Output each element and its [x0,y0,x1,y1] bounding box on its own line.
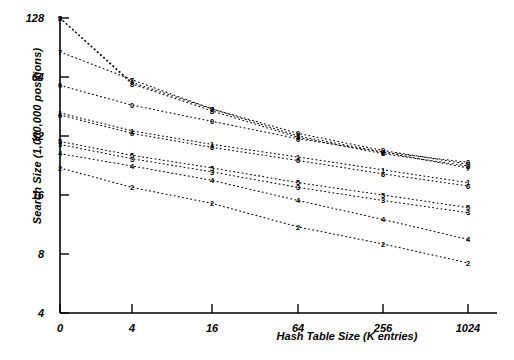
data-point-label-0: 0 [210,117,214,126]
series-line-2 [60,168,468,263]
series-2: 222222 [58,164,470,268]
data-point-label-3: 3 [296,183,300,192]
series-8: 888888 [58,14,470,171]
data-point-label-6: 6 [296,156,300,165]
data-series-layer: 9999997777778888880000001111116666665555… [0,0,514,360]
series-6: 666666 [58,111,470,191]
series-5: 555555 [58,137,470,212]
data-point-label-6: 6 [58,111,62,120]
series-line-8 [60,18,468,166]
data-point-label-7: 7 [58,48,62,57]
series-9: 999999 [58,14,470,169]
data-point-label-2: 2 [466,259,470,268]
data-point-label-2: 2 [130,183,134,192]
series-1: 111111 [58,109,470,188]
series-3: 333333 [58,140,470,217]
series-line-7 [60,52,468,168]
data-point-label-6: 6 [381,170,385,179]
series-line-6 [60,115,468,186]
data-point-label-0: 0 [130,101,134,110]
data-point-label-4: 4 [466,235,471,244]
data-point-label-0: 0 [381,148,385,157]
series-7: 777777 [58,48,470,173]
data-point-label-8: 8 [58,14,62,23]
data-point-label-2: 2 [210,199,214,208]
data-point-label-6: 6 [210,143,214,152]
series-line-9 [60,18,468,164]
data-point-label-3: 3 [466,208,470,217]
data-point-label-2: 2 [381,240,385,249]
data-point-label-0: 0 [466,158,470,167]
data-point-label-3: 3 [381,196,385,205]
data-point-label-2: 2 [296,223,300,232]
data-point-label-8: 8 [130,80,134,89]
series-line-4 [60,154,468,240]
data-point-label-4: 4 [58,149,63,158]
data-point-label-6: 6 [130,129,134,138]
series-line-5 [60,141,468,207]
data-point-label-6: 6 [466,182,470,191]
data-point-label-8: 8 [210,107,214,116]
data-point-label-2: 2 [58,164,62,173]
data-point-label-0: 0 [296,135,300,144]
chart-root: Search Size (1,000,000 positions) Hash T… [0,0,514,360]
data-point-label-0: 0 [58,81,62,90]
series-4: 444444 [58,149,471,244]
data-point-label-3: 3 [58,140,62,149]
